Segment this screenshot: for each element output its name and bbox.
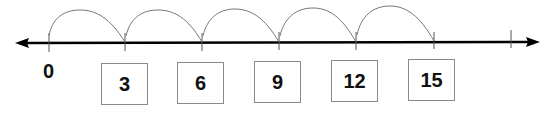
answer-box-value: 6 [195,72,206,95]
answer-box-5: 15 [408,59,455,101]
number-line-diagram: 0 3 6 9 12 15 [0,0,553,113]
answer-box-value: 15 [420,69,442,92]
arc-0-3 [49,10,125,42]
arc-6-9 [203,9,279,42]
number-line [24,42,530,43]
answer-box-value: 9 [272,71,283,94]
right-arrow-icon [526,37,540,47]
arc-12-15 [357,6,434,41]
arc-3-6 [126,10,202,42]
label-zero: 0 [43,60,54,83]
answer-box-value: 12 [343,70,365,93]
left-arrow-icon [15,38,29,48]
answer-box-4: 12 [331,60,378,102]
jump-arcs [49,6,434,42]
answer-box-3: 9 [254,61,301,103]
answer-box-1: 3 [101,63,148,105]
answer-box-value: 3 [119,73,130,96]
answer-box-2: 6 [177,62,224,104]
arc-9-12 [280,8,356,42]
